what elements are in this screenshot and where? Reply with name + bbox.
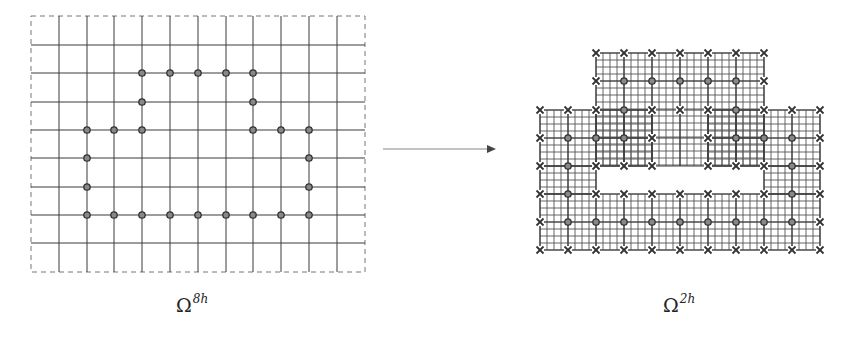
interface-node-circle	[195, 70, 201, 76]
interface-node-circle	[84, 184, 90, 190]
label-omega-8h: Ω8h	[176, 293, 208, 315]
interface-node-circle	[621, 107, 627, 113]
interface-node-circle	[705, 78, 711, 84]
interface-node-circle	[250, 127, 256, 133]
restriction-arrow	[383, 145, 496, 153]
interface-node-circle	[565, 163, 571, 169]
interface-node-circle	[139, 70, 145, 76]
interface-node-circle	[306, 127, 312, 133]
interface-node-circle	[139, 99, 145, 105]
interface-node-circle	[167, 70, 173, 76]
interface-node-circle	[111, 212, 117, 218]
interface-node-circle	[84, 212, 90, 218]
interface-node-circle	[621, 78, 627, 84]
interface-node-circle	[593, 135, 599, 141]
interface-node-circle	[306, 212, 312, 218]
interface-node-circle	[649, 219, 655, 225]
interface-node-circle	[789, 191, 795, 197]
interface-node-circle	[111, 127, 117, 133]
interface-node-circle	[733, 219, 739, 225]
interface-node-circle	[278, 127, 284, 133]
interface-node-circle	[789, 135, 795, 141]
superscript-8h: 8h	[193, 292, 208, 306]
interface-node-circle	[84, 155, 90, 161]
interface-node-circle	[84, 127, 90, 133]
interface-node-circle	[677, 219, 683, 225]
interface-node-circle	[789, 219, 795, 225]
fine-grid-2h	[536, 49, 824, 254]
interface-node-circle	[593, 219, 599, 225]
diagram-canvas	[0, 0, 849, 338]
interface-node-circle	[677, 78, 683, 84]
interface-node-circle	[195, 212, 201, 218]
superscript-2h: 2h	[680, 292, 695, 306]
arrow-head-icon	[487, 145, 496, 153]
interface-node-circle	[733, 135, 739, 141]
interface-node-circle	[250, 99, 256, 105]
interface-node-circle	[621, 135, 627, 141]
interface-node-circle	[761, 135, 767, 141]
interface-node-circle	[223, 70, 229, 76]
interface-node-circle	[621, 219, 627, 225]
omega-symbol: Ω	[176, 294, 192, 316]
interface-node-circle	[278, 212, 284, 218]
interface-node-circle	[250, 212, 256, 218]
interface-node-circle	[139, 127, 145, 133]
interface-node-circle	[565, 135, 571, 141]
interface-node-circle	[761, 219, 767, 225]
omega-symbol: Ω	[663, 294, 679, 316]
interface-node-circle	[250, 70, 256, 76]
interface-node-circle	[733, 107, 739, 113]
interface-node-circle	[223, 212, 229, 218]
interface-node-circle	[565, 191, 571, 197]
interface-node-circle	[789, 163, 795, 169]
interface-node-circle	[139, 212, 145, 218]
interface-node-circle	[705, 219, 711, 225]
interface-node-circle	[306, 155, 312, 161]
label-omega-2h: Ω2h	[663, 293, 695, 315]
interface-node-circle	[167, 212, 173, 218]
coarse-grid-8h	[31, 16, 365, 272]
interface-node-circle	[649, 78, 655, 84]
interface-node-circle	[733, 78, 739, 84]
interface-node-circle	[306, 184, 312, 190]
interface-node-circle	[565, 219, 571, 225]
